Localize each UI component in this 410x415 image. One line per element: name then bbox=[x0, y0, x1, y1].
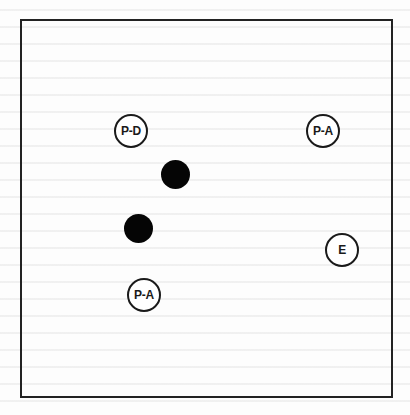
diagram-frame bbox=[20, 19, 393, 398]
filled-dot-2 bbox=[124, 214, 153, 243]
node-p-a-bottom: P-A bbox=[127, 278, 161, 312]
node-label: E bbox=[338, 243, 346, 257]
node-label: P-A bbox=[313, 124, 333, 138]
node-p-d: P-D bbox=[114, 114, 148, 148]
node-e: E bbox=[325, 233, 359, 267]
node-p-a-top: P-A bbox=[306, 114, 340, 148]
node-label: P-D bbox=[121, 124, 141, 138]
node-label: P-A bbox=[134, 288, 154, 302]
filled-dot-1 bbox=[161, 160, 190, 189]
